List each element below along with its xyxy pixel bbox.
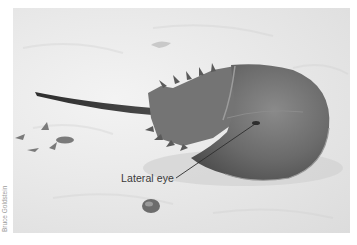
- lateral-eye: [252, 121, 260, 125]
- photo-illustration: [13, 8, 350, 233]
- seaweed-debris: [15, 122, 74, 152]
- photo-credit: Bruce Goldstein: [1, 186, 8, 232]
- crab-tail: [35, 92, 163, 116]
- shell-fragment: [151, 41, 171, 48]
- pebble-highlight: [145, 202, 153, 207]
- horseshoe-crab-photo: [13, 8, 350, 233]
- lateral-eye-label: Lateral eye: [121, 172, 174, 184]
